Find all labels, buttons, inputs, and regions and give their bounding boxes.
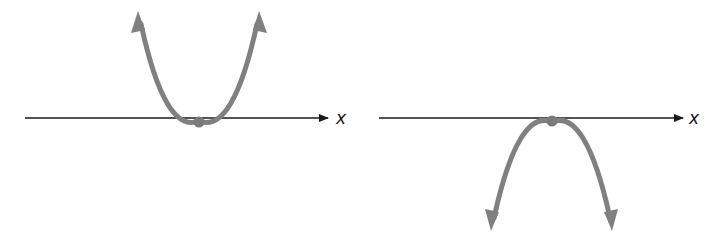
arrowhead-down-right-icon	[604, 209, 618, 231]
vertex-point-left	[194, 117, 205, 128]
arrowhead-down-left-icon	[485, 209, 499, 231]
parabola-down-curve	[494, 120, 610, 218]
x-axis-label-left: x	[335, 108, 347, 128]
parabola-diagram: x x	[0, 0, 726, 243]
vertex-point-right	[547, 116, 558, 127]
arrowhead-up-left-icon	[131, 11, 145, 33]
parabola-up-curve	[141, 24, 257, 123]
x-axis-label-right: x	[688, 108, 700, 128]
panel-downward-parabola: x	[379, 108, 700, 231]
arrowhead-up-right-icon	[253, 11, 267, 33]
panel-upward-parabola: x	[25, 11, 347, 128]
